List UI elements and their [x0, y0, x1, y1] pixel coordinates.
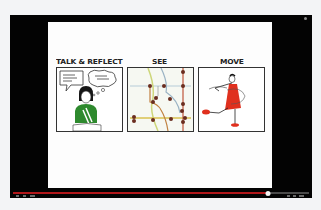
fullscreen-icon[interactable]	[299, 195, 304, 197]
see-illustration	[127, 67, 194, 132]
volume-icon[interactable]	[30, 195, 35, 197]
video-player[interactable]: TALK & REFLECT SEE MOVE	[10, 15, 312, 198]
controls-left	[16, 195, 35, 197]
controls-right	[287, 195, 304, 197]
heading-see: SEE	[152, 57, 167, 65]
move-illustration	[198, 67, 265, 132]
progress-played	[13, 192, 268, 194]
talk-reflect-illustration	[56, 67, 123, 132]
next-icon[interactable]	[23, 195, 26, 197]
heading-talk-reflect: TALK & REFLECT	[56, 57, 122, 65]
captions-icon[interactable]	[293, 195, 296, 197]
heading-move: MOVE	[220, 57, 244, 65]
video-frame-slide: TALK & REFLECT SEE MOVE	[48, 22, 272, 188]
more-options-icon[interactable]	[304, 17, 307, 20]
play-icon[interactable]	[16, 195, 19, 197]
settings-icon[interactable]	[287, 195, 290, 197]
progress-bar[interactable]	[13, 192, 309, 194]
progress-scrubber-handle[interactable]	[265, 191, 270, 196]
